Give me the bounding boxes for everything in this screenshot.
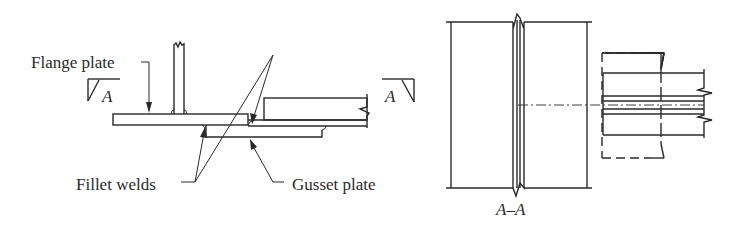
- beam-section: [603, 69, 712, 138]
- gusset-plate-label: Gusset plate: [292, 175, 376, 194]
- section-title: A–A: [495, 200, 526, 219]
- flange-plate-label: Flange plate: [31, 53, 115, 72]
- flange-plate: [113, 114, 248, 125]
- section-a-a-view: A–A: [446, 14, 712, 219]
- section-mark-right-letter: A: [384, 87, 396, 106]
- fillet-welds-leader: [181, 55, 273, 182]
- flange-plate-leader: [141, 62, 152, 113]
- connection-diagram: Flange plate A Fillet welds Gusset plate: [0, 0, 743, 232]
- section-mark-left: A: [88, 79, 120, 106]
- vertical-member: [171, 42, 187, 114]
- section-mark-right: A: [382, 79, 414, 106]
- gusset-plate-leader: [250, 139, 284, 182]
- section-mark-left-letter: A: [101, 87, 113, 106]
- flange-plate-hidden: [602, 53, 650, 158]
- fillet-welds-label: Fillet welds: [76, 175, 156, 194]
- horizontal-beam: [248, 94, 369, 128]
- left-elevation-view: Flange plate A Fillet welds Gusset plate: [31, 42, 414, 194]
